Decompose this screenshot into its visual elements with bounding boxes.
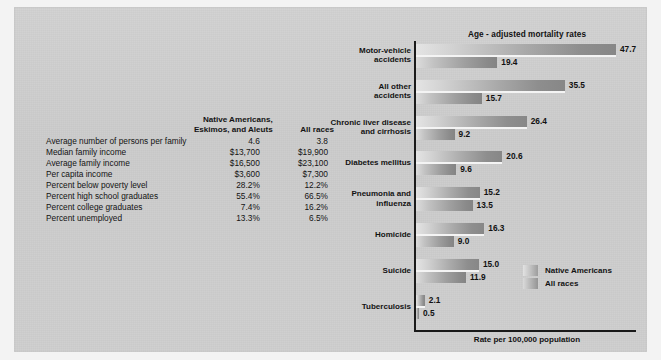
- legend-label-all-races: All races: [545, 279, 578, 288]
- bar-value-native-americans: 2.1: [429, 295, 441, 306]
- bar-all-races: [416, 236, 454, 247]
- category-label-line: Homicide: [296, 230, 411, 239]
- row-value-native: 4.6: [194, 136, 278, 147]
- bar-value-native-americans: 35.5: [569, 80, 585, 91]
- row-value-native: $16,500: [194, 158, 278, 169]
- category-label: Tuberculosis: [296, 302, 411, 311]
- category-label: Chronic liver diseaseand cirrhosis: [296, 118, 411, 137]
- category-label-line: accidents: [296, 91, 411, 100]
- bar-value-all-races: 0.5: [423, 308, 435, 319]
- bar-value-all-races: 9.0: [458, 236, 470, 247]
- bar-value-all-races: 11.9: [470, 272, 486, 283]
- table: Native Americans, Eskimos, and Aleuts Al…: [46, 115, 336, 223]
- row-label: Percent college graduates: [46, 202, 194, 213]
- row-label: Per capita income: [46, 169, 194, 180]
- bar-all-races: [416, 272, 466, 283]
- bar-all-races: [416, 93, 482, 104]
- bar-all-races: [416, 129, 455, 140]
- category-label: Homicide: [296, 230, 411, 239]
- bar-native-americans: [416, 187, 480, 198]
- category-label-line: All other: [296, 82, 411, 91]
- category-label-line: accidents: [296, 55, 411, 64]
- table-body: Average number of persons per family 4.6…: [46, 136, 336, 223]
- bar-native-americans: [416, 80, 565, 91]
- category-label-line: Pneumonia and: [296, 189, 411, 198]
- bar-all-races: [416, 164, 456, 175]
- bar-all-races: [416, 57, 497, 68]
- category-label: Diabetes mellitus: [296, 158, 411, 167]
- bar-native-americans: [416, 295, 425, 306]
- row-label: Average number of persons per family: [46, 136, 194, 147]
- legend-item-all-races: All races: [523, 277, 612, 290]
- table-row: Average number of persons per family 4.6…: [46, 136, 336, 147]
- chart-title: Age - adjusted mortality rates: [417, 30, 637, 39]
- bar-value-all-races: 9.2: [459, 129, 471, 140]
- row-value-native: 7.4%: [194, 202, 278, 213]
- column-header-native-americans: Native Americans, Eskimos, and Aleuts: [194, 115, 278, 136]
- bar-value-native-americans: 47.7: [620, 44, 636, 55]
- x-axis-line: [414, 330, 636, 332]
- bar-value-all-races: 9.6: [460, 164, 472, 175]
- row-value-all: $19,900: [278, 147, 336, 158]
- bar-native-americans: [416, 116, 527, 127]
- row-label: Percent below poverty level: [46, 180, 194, 191]
- figure-page: Native Americans, Eskimos, and Aleuts Al…: [0, 0, 661, 360]
- row-label: Median family income: [46, 147, 194, 158]
- column-header-blank: [46, 115, 194, 136]
- bar-value-all-races: 19.4: [501, 57, 517, 68]
- bar-value-native-americans: 15.2: [484, 187, 500, 198]
- bar-value-native-americans: 16.3: [488, 223, 504, 234]
- row-label: Percent high school graduates: [46, 191, 194, 202]
- category-label-line: Diabetes mellitus: [296, 158, 411, 167]
- row-value-native: $13,700: [194, 147, 278, 158]
- category-label-line: influenza: [296, 199, 411, 208]
- row-value-all: $7,300: [278, 169, 336, 180]
- figure-panel: Native Americans, Eskimos, and Aleuts Al…: [14, 7, 647, 352]
- bar-value-all-races: 13.5: [477, 200, 493, 211]
- category-label-line: Motor-vehicle: [296, 46, 411, 55]
- row-value-native: 55.4%: [194, 191, 278, 202]
- category-label-line: and cirrhosis: [296, 127, 411, 136]
- table-row: Percent high school graduates 55.4% 66.5…: [46, 191, 336, 202]
- table-header: Native Americans, Eskimos, and Aleuts Al…: [46, 115, 336, 136]
- category-label: Motor-vehicleaccidents: [296, 46, 411, 65]
- bar-native-americans: [416, 259, 479, 270]
- mortality-bar-chart: Age - adjusted mortality rates Rate per …: [347, 17, 647, 357]
- bar-value-all-races: 15.7: [486, 93, 502, 104]
- bar-native-americans: [416, 223, 484, 234]
- table-row: Per capita income $3,600 $7,300: [46, 169, 336, 180]
- table-row: Percent below poverty level 28.2% 12.2%: [46, 180, 336, 191]
- row-value-native: $3,600: [194, 169, 278, 180]
- category-label-line: Chronic liver disease: [296, 118, 411, 127]
- table-row: Percent college graduates 7.4% 16.2%: [46, 202, 336, 213]
- row-value-all: 6.5%: [278, 213, 336, 224]
- x-axis-label: Rate per 100,000 population: [417, 335, 637, 344]
- bar-value-native-americans: 15.0: [483, 259, 499, 270]
- table-header-row: Native Americans, Eskimos, and Aleuts Al…: [46, 115, 336, 136]
- row-value-native: 13.3%: [194, 213, 278, 224]
- column-header-native-line2: Eskimos, and Aleuts: [194, 125, 273, 135]
- category-label: All otheraccidents: [296, 82, 411, 101]
- category-label: Suicide: [296, 266, 411, 275]
- chart-legend: Native Americans All races: [523, 264, 612, 290]
- bar-value-native-americans: 26.4: [531, 116, 547, 127]
- legend-label-native-americans: Native Americans: [545, 266, 612, 275]
- row-value-all: 3.8: [278, 136, 336, 147]
- category-label-line: Tuberculosis: [296, 302, 411, 311]
- bar-value-native-americans: 20.6: [506, 151, 522, 162]
- legend-swatch-native-americans: [523, 265, 538, 276]
- bar-all-races: [416, 308, 419, 319]
- bar-native-americans: [416, 44, 616, 55]
- table-row: Percent unemployed 13.3% 6.5%: [46, 213, 336, 224]
- socioeconomic-table: Native Americans, Eskimos, and Aleuts Al…: [46, 115, 336, 223]
- column-header-native-line1: Native Americans,: [194, 115, 273, 125]
- table-row: Average family income $16,500 $23,100: [46, 158, 336, 169]
- row-label: Average family income: [46, 158, 194, 169]
- category-label: Pneumonia andinfluenza: [296, 189, 411, 208]
- legend-item-native-americans: Native Americans: [523, 264, 612, 277]
- bar-native-americans: [416, 151, 502, 162]
- row-label: Percent unemployed: [46, 213, 194, 224]
- row-value-native: 28.2%: [194, 180, 278, 191]
- bar-all-races: [416, 200, 473, 211]
- category-label-line: Suicide: [296, 266, 411, 275]
